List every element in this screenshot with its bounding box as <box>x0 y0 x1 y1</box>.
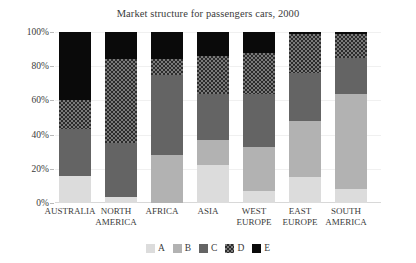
segment-B <box>197 140 229 166</box>
legend-item-a[interactable]: A <box>146 243 165 253</box>
y-tick-20 <box>50 169 54 170</box>
bar-group-west-europe[interactable] <box>243 32 275 203</box>
y-tick-0 <box>50 203 54 204</box>
segment-A <box>59 176 91 203</box>
y-axis-label-100: 100% <box>5 27 49 37</box>
y-axis-label-20: 20% <box>5 164 49 174</box>
segment-C <box>105 143 137 197</box>
legend-swatch-a-icon <box>146 244 155 253</box>
legend-item-d[interactable]: D <box>225 243 244 253</box>
y-tick-40 <box>50 135 54 136</box>
legend-swatch-c-icon <box>199 244 208 253</box>
segment-C <box>335 58 367 94</box>
chart-legend: A B C D E <box>0 243 416 253</box>
legend-label-b: B <box>185 243 191 253</box>
legend-item-c[interactable]: C <box>199 243 217 253</box>
chart-title: Market structure for passengers cars, 20… <box>0 8 416 19</box>
segment-A <box>289 177 321 203</box>
segment-C <box>197 94 229 140</box>
y-tick-60 <box>50 100 54 101</box>
y-tick-80 <box>50 66 54 67</box>
segment-C <box>289 73 321 121</box>
legend-item-b[interactable]: B <box>173 243 191 253</box>
segment-B <box>151 155 183 203</box>
stacked-bar <box>197 32 229 203</box>
legend-item-e[interactable]: E <box>252 243 270 253</box>
segment-D <box>151 59 183 74</box>
legend-label-d: D <box>237 243 244 253</box>
bar-group-asia[interactable] <box>197 32 229 203</box>
segment-D <box>335 34 367 58</box>
stacked-bar <box>243 32 275 203</box>
y-axis-label-80: 80% <box>5 61 49 71</box>
segment-E <box>197 32 229 56</box>
segment-D <box>197 56 229 94</box>
y-tick-100 <box>50 32 54 33</box>
segment-B <box>243 147 275 191</box>
segment-D <box>243 53 275 94</box>
stacked-bar <box>335 32 367 203</box>
y-axis-label-60: 60% <box>5 95 49 105</box>
legend-label-a: A <box>158 243 165 253</box>
segment-D <box>105 59 137 143</box>
stacked-bar <box>105 32 137 203</box>
bar-group-east-europe[interactable] <box>289 32 321 203</box>
segment-E <box>335 32 367 34</box>
segment-E <box>289 32 321 34</box>
segment-E <box>105 32 137 59</box>
bar-group-australia[interactable] <box>59 32 91 203</box>
bar-group-south-america[interactable] <box>335 32 367 203</box>
bar-group-north-america[interactable] <box>105 32 137 203</box>
segment-C <box>243 94 275 147</box>
legend-swatch-d-icon <box>225 244 234 253</box>
segment-B <box>335 94 367 190</box>
legend-label-e: E <box>264 243 270 253</box>
y-axis-label-40: 40% <box>5 130 49 140</box>
stacked-bar-chart: Market structure for passengers cars, 20… <box>0 0 416 263</box>
bar-group-africa[interactable] <box>151 32 183 203</box>
segment-A <box>197 165 229 203</box>
stacked-bar <box>289 32 321 203</box>
segment-A <box>243 191 275 203</box>
plot-area <box>55 32 381 203</box>
segment-A <box>105 197 137 203</box>
segment-C <box>59 129 91 175</box>
stacked-bar <box>59 32 91 203</box>
segment-D <box>59 100 91 129</box>
stacked-bar <box>151 32 183 203</box>
segment-C <box>151 75 183 155</box>
segment-B <box>289 121 321 177</box>
segment-E <box>59 32 91 100</box>
segment-E <box>243 32 275 53</box>
x-axis-label-south-america: SOUTH AMERICA <box>315 206 377 228</box>
segment-D <box>289 34 321 73</box>
legend-label-c: C <box>211 243 217 253</box>
legend-swatch-b-icon <box>173 244 182 253</box>
legend-swatch-e-icon <box>252 244 261 253</box>
segment-A <box>335 189 367 203</box>
segment-E <box>151 32 183 59</box>
